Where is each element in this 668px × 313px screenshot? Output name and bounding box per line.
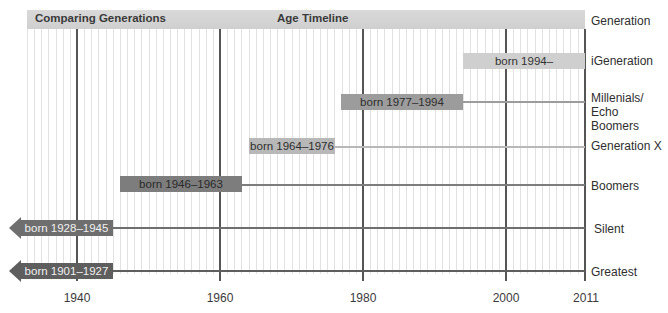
minor-gridline — [342, 29, 343, 274]
minor-gridline — [170, 29, 171, 274]
tick-label-1940: 1940 — [64, 291, 91, 305]
line-boomers — [242, 184, 585, 186]
line-silent — [113, 227, 585, 229]
minor-gridline — [427, 29, 428, 274]
minor-gridline — [384, 29, 385, 274]
line-greatest — [113, 270, 585, 272]
minor-gridline — [199, 29, 200, 274]
minor-gridline — [63, 29, 64, 274]
minor-gridline — [227, 29, 228, 274]
gen-label-millenials-line1: Millenials/ — [591, 91, 668, 105]
minor-gridline — [406, 29, 407, 274]
minor-gridline — [84, 29, 85, 274]
gen-label-igeneration: iGeneration — [591, 54, 653, 68]
minor-gridline — [420, 29, 421, 274]
minor-gridline — [134, 29, 135, 274]
bar-label-igeneration: born 1994– — [495, 55, 553, 67]
bar-greatest: born 1901–1927 — [20, 263, 113, 279]
gen-label-boomers: Boomers — [591, 179, 639, 193]
bar-millenials: born 1977–1994 — [341, 94, 463, 110]
minor-gridline — [377, 29, 378, 274]
minor-gridline — [70, 29, 71, 274]
chart-title: Comparing Generations — [35, 12, 166, 24]
tick-label-1980: 1980 — [350, 291, 377, 305]
generation-column-label: Generation — [591, 14, 650, 28]
minor-gridline — [356, 29, 357, 274]
minor-gridline — [234, 29, 235, 274]
minor-gridline — [413, 29, 414, 274]
bar-silent: born 1928–1945 — [20, 220, 113, 236]
line-genx — [335, 146, 585, 148]
minor-gridline — [120, 29, 121, 274]
bar-label-genx: born 1964–1976 — [250, 140, 334, 152]
bar-label-boomers: born 1946–1963 — [139, 178, 223, 190]
gen-label-millenials: Millenials/ Echo Boomers — [591, 91, 668, 133]
minor-gridline — [206, 29, 207, 274]
tick-label-1960: 1960 — [207, 291, 234, 305]
tick-label-2000: 2000 — [493, 291, 520, 305]
minor-gridline — [184, 29, 185, 274]
minor-gridline — [392, 29, 393, 274]
minor-gridline — [27, 29, 28, 274]
minor-gridline — [213, 29, 214, 274]
minor-gridline — [442, 29, 443, 274]
gen-label-silent: Silent — [594, 222, 624, 236]
gridline-1980 — [362, 29, 364, 281]
minor-gridline — [399, 29, 400, 274]
gridline-1960 — [219, 29, 221, 281]
minor-gridline — [177, 29, 178, 274]
chart-subtitle: Age Timeline — [277, 12, 348, 24]
minor-gridline — [41, 29, 42, 274]
minor-gridline — [241, 29, 242, 274]
minor-gridline — [113, 29, 114, 274]
minor-gridline — [191, 29, 192, 274]
minor-gridline — [370, 29, 371, 274]
minor-gridline — [149, 29, 150, 274]
minor-gridline — [141, 29, 142, 274]
minor-gridline — [435, 29, 436, 274]
minor-gridline — [163, 29, 164, 274]
minor-gridline — [349, 29, 350, 274]
minor-gridline — [106, 29, 107, 274]
bar-genx: born 1964–1976 — [249, 138, 335, 154]
minor-gridline — [34, 29, 35, 274]
minor-gridline — [48, 29, 49, 274]
bar-label-greatest: born 1901–1927 — [25, 265, 109, 277]
minor-gridline — [56, 29, 57, 274]
minor-gridline — [156, 29, 157, 274]
line-millenials — [463, 101, 585, 103]
gen-label-millenials-line2: Echo Boomers — [591, 105, 668, 133]
bar-boomers: born 1946–1963 — [120, 176, 242, 192]
gen-label-greatest: Greatest — [591, 265, 637, 279]
chart-header-bar: Comparing Generations Age Timeline — [27, 10, 585, 29]
minor-gridline — [449, 29, 450, 274]
bar-igeneration: born 1994– — [463, 53, 585, 69]
bar-label-silent: born 1928–1945 — [25, 222, 109, 234]
minor-gridline — [127, 29, 128, 274]
bar-label-millenials: born 1977–1994 — [360, 96, 444, 108]
minor-gridline — [456, 29, 457, 274]
minor-gridline — [98, 29, 99, 274]
gen-label-genx: Generation X — [591, 139, 662, 153]
tick-label-2011: 2011 — [573, 291, 599, 305]
minor-gridline — [91, 29, 92, 274]
gridline-1940 — [76, 29, 78, 281]
